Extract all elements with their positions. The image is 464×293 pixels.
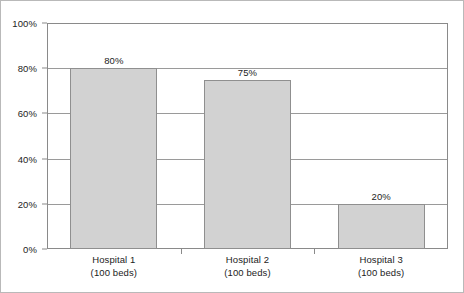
x-axis-category-label: Hospital 2(100 beds) bbox=[224, 253, 270, 279]
x-axis-category-sublabel: (100 beds) bbox=[224, 266, 270, 279]
bar[interactable] bbox=[204, 80, 291, 250]
bars-layer: 80%75%20% bbox=[47, 23, 448, 249]
x-axis-category-label: Hospital 3(100 beds) bbox=[358, 253, 404, 279]
y-axis-tick-label: 80% bbox=[18, 63, 37, 74]
y-axis-tick-label: 20% bbox=[18, 198, 37, 209]
y-axis-tick-label: 40% bbox=[18, 153, 37, 164]
y-axis-tick-label: 60% bbox=[18, 108, 37, 119]
bar-chart-figure: 0%20%40%60%80%100% 80%75%20% Hospital 1(… bbox=[0, 0, 464, 293]
bar[interactable] bbox=[338, 204, 425, 249]
bar[interactable] bbox=[70, 68, 157, 249]
bar-value-label: 20% bbox=[371, 191, 390, 202]
x-axis-category-label: Hospital 1(100 beds) bbox=[91, 253, 137, 279]
bar-value-label: 75% bbox=[238, 67, 257, 78]
x-axis-category-sublabel: (100 beds) bbox=[91, 266, 137, 279]
x-axis-category-name: Hospital 1 bbox=[92, 254, 135, 265]
x-axis-category-sublabel: (100 beds) bbox=[358, 266, 404, 279]
x-axis-category-name: Hospital 2 bbox=[226, 254, 269, 265]
x-axis-labels: Hospital 1(100 beds)Hospital 2(100 beds)… bbox=[47, 253, 448, 293]
y-axis-tick-label: 100% bbox=[12, 18, 37, 29]
y-axis-tick-label: 0% bbox=[23, 244, 37, 255]
y-axis: 0%20%40%60%80%100% bbox=[1, 1, 47, 293]
bar-value-label: 80% bbox=[104, 55, 123, 66]
x-axis-category-name: Hospital 3 bbox=[360, 254, 403, 265]
